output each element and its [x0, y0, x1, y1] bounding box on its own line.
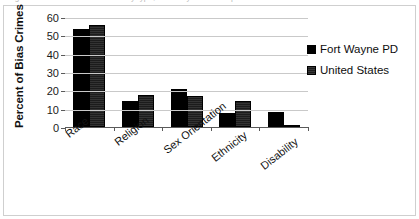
- y-axis-tick-labels: 6050403020100: [40, 18, 62, 128]
- y-axis-tick-mark: [61, 73, 65, 74]
- bar: [73, 29, 89, 127]
- x-axis-category-label: Disability: [258, 136, 299, 172]
- chart-legend: Fort Wayne PDUnited States: [307, 44, 419, 85]
- legend-label: United States: [320, 65, 389, 77]
- y-axis-tick-label: 10: [47, 104, 59, 115]
- gridline: [65, 18, 308, 19]
- y-axis-tick-mark: [61, 55, 65, 56]
- bar: [89, 25, 105, 127]
- bar: [235, 101, 251, 127]
- legend-item[interactable]: Fort Wayne PD: [307, 44, 419, 56]
- plot-wrapper: 6050403020100: [40, 18, 308, 128]
- y-axis-tick-label: 0: [53, 123, 59, 134]
- gridline: [65, 91, 308, 92]
- y-axis-tick-label: 20: [47, 86, 59, 97]
- x-axis-category-label: Ethnicity: [210, 130, 250, 164]
- y-axis-title: Percent of Bias Crimes: [10, 16, 28, 128]
- gridline: [65, 110, 308, 111]
- bar: [284, 125, 300, 127]
- legend-swatch-icon: [307, 45, 316, 54]
- y-axis-tick-label: 60: [47, 13, 59, 24]
- gridline: [65, 73, 308, 74]
- y-axis-tick-mark: [61, 91, 65, 92]
- legend-label: Fort Wayne PD: [320, 44, 398, 56]
- legend-item[interactable]: United States: [307, 65, 419, 77]
- bar: [219, 113, 235, 127]
- y-axis-tick-label: 40: [47, 49, 59, 60]
- y-axis-tick-mark: [61, 18, 65, 19]
- chart-frame: Percent of Bias Crimes 6050403020100 Rac…: [3, 5, 416, 216]
- gridline: [65, 55, 308, 56]
- plot-area: [65, 18, 308, 128]
- legend-swatch-icon: [307, 66, 316, 75]
- x-axis-category-labels: RaceReligionSex OrientationEthnicityDisa…: [65, 130, 315, 219]
- clipped-figure-caption: Figure 3. Percent of bias crimes by type…: [8, 0, 338, 2]
- gridline: [65, 36, 308, 37]
- y-axis-tick-label: 30: [47, 68, 59, 79]
- y-axis-tick-label: 50: [47, 31, 59, 42]
- y-axis-tick-mark: [61, 110, 65, 111]
- bar: [268, 112, 284, 127]
- bar: [171, 89, 187, 128]
- chart-screenshot: Figure 3. Percent of bias crimes by type…: [0, 0, 419, 219]
- y-axis-tick-mark: [61, 36, 65, 37]
